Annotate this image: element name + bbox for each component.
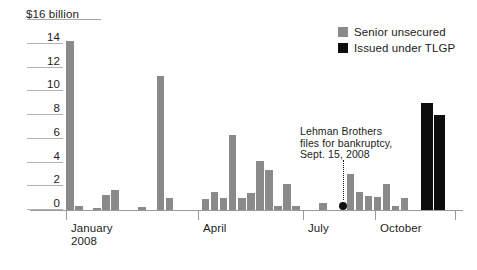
y-axis-tick xyxy=(27,67,63,68)
bar-senior-unsecured xyxy=(229,135,237,210)
x-axis-tick xyxy=(198,211,199,220)
bar-senior-unsecured xyxy=(211,192,219,210)
bar-senior-unsecured xyxy=(166,198,174,210)
x-axis-label: July xyxy=(308,222,329,234)
bar-issued-under-tlgp xyxy=(434,115,446,210)
y-axis-tick xyxy=(27,185,63,186)
x-axis-baseline xyxy=(30,210,463,211)
annotation-leader-line xyxy=(343,160,344,200)
y-axis-label: 6 xyxy=(8,126,60,138)
bar-senior-unsecured xyxy=(365,196,373,210)
bar-senior-unsecured xyxy=(374,197,382,210)
bar-senior-unsecured xyxy=(356,192,364,210)
x-axis-tick xyxy=(455,211,456,220)
annotation-event-dot-icon xyxy=(339,202,347,210)
bar-senior-unsecured xyxy=(265,170,273,210)
bar-senior-unsecured xyxy=(157,76,165,210)
legend-label: Senior unsecured xyxy=(354,26,446,38)
legend-swatch-icon xyxy=(338,43,348,53)
annotation-line: Sept. 15, 2008 xyxy=(300,149,392,161)
x-axis-label: January2008 xyxy=(71,222,113,247)
bar-senior-unsecured xyxy=(220,198,228,210)
bar-senior-unsecured xyxy=(283,184,291,210)
y-axis-tick xyxy=(27,43,63,44)
y-axis-label: 12 xyxy=(8,55,60,67)
y-axis-label: 2 xyxy=(8,173,60,185)
legend-item-issued-under-tlgp: Issued under TLGP xyxy=(338,42,455,54)
x-axis-label: April xyxy=(203,222,227,234)
x-axis-label: October xyxy=(380,222,422,234)
annotation-lehman-bankruptcy: Lehman Brothers files for bankruptcy, Se… xyxy=(300,126,392,161)
bar-senior-unsecured xyxy=(247,193,255,210)
bar-senior-unsecured xyxy=(347,174,355,210)
bar-senior-unsecured xyxy=(383,184,391,210)
legend-swatch-icon xyxy=(338,27,348,37)
y-axis-label: 8 xyxy=(8,102,60,114)
bar-senior-unsecured xyxy=(111,190,119,210)
bar-senior-unsecured xyxy=(238,198,246,210)
y-axis-tick xyxy=(27,162,63,163)
bar-senior-unsecured xyxy=(102,195,110,210)
x-axis-label-year: 2008 xyxy=(71,235,113,247)
bar-senior-unsecured xyxy=(202,199,210,210)
x-axis-tick xyxy=(66,211,67,220)
x-axis-tick xyxy=(303,211,304,220)
chart-canvas: $16 billion 02468101214 January2008April… xyxy=(0,0,477,270)
y-axis-tick xyxy=(27,138,63,139)
legend-label: Issued under TLGP xyxy=(354,42,455,54)
x-axis-tick xyxy=(375,211,376,220)
annotation-line: Lehman Brothers xyxy=(300,126,392,138)
y-axis-tick xyxy=(27,114,63,115)
y-axis-label: 14 xyxy=(8,31,60,43)
y-axis-tick xyxy=(27,90,63,91)
legend-item-senior-unsecured: Senior unsecured xyxy=(338,26,455,38)
y-axis-label: 10 xyxy=(8,78,60,90)
bar-senior-unsecured xyxy=(401,198,409,210)
bar-issued-under-tlgp xyxy=(421,103,433,210)
y-axis-label: 0 xyxy=(8,197,60,209)
bar-senior-unsecured xyxy=(66,41,74,210)
legend: Senior unsecured Issued under TLGP xyxy=(338,26,455,58)
y-axis-label: 4 xyxy=(8,150,60,162)
bar-senior-unsecured xyxy=(256,161,264,210)
